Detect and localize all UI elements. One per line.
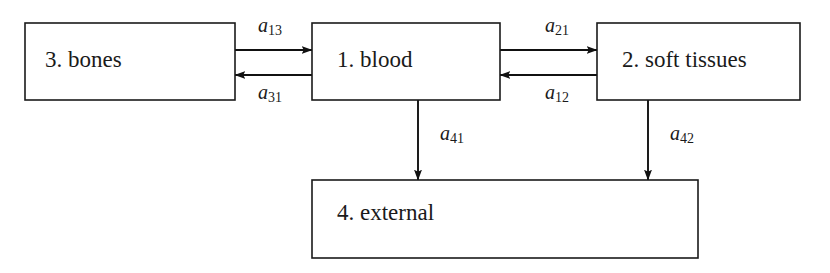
rate-subscript-a13: 13 xyxy=(268,23,282,38)
compartment-label-blood: 1. blood xyxy=(337,47,413,72)
rate-label-a42: a42 xyxy=(670,122,694,147)
rate-subscript-a42: 42 xyxy=(680,131,694,146)
rate-label-a31: a31 xyxy=(258,81,282,106)
rate-label-a21: a21 xyxy=(545,14,569,39)
rate-symbol-a21: a xyxy=(545,14,555,36)
rate-symbol-a31: a xyxy=(258,81,268,103)
rate-label-a13: a13 xyxy=(258,14,282,39)
rate-label-a41: a41 xyxy=(440,122,464,147)
rate-subscript-a31: 31 xyxy=(268,90,282,105)
compartment-label-external: 4. external xyxy=(337,200,434,225)
compartment-label-bones: 3. bones xyxy=(45,47,122,72)
compartment-label-soft_tissues: 2. soft tissues xyxy=(622,47,747,72)
compartment-diagram: 3. bones1. blood2. soft tissues4. extern… xyxy=(0,0,830,273)
rate-symbol-a12: a xyxy=(545,81,555,103)
rate-symbol-a13: a xyxy=(258,14,268,36)
rate-label-a12: a12 xyxy=(545,81,569,106)
rate-subscript-a41: 41 xyxy=(450,131,464,146)
diagram-canvas: 3. bones1. blood2. soft tissues4. extern… xyxy=(0,0,830,273)
rate-subscript-a21: 21 xyxy=(555,23,569,38)
rate-subscript-a12: 12 xyxy=(555,90,569,105)
rate-symbol-a42: a xyxy=(670,122,680,144)
rate-symbol-a41: a xyxy=(440,122,450,144)
